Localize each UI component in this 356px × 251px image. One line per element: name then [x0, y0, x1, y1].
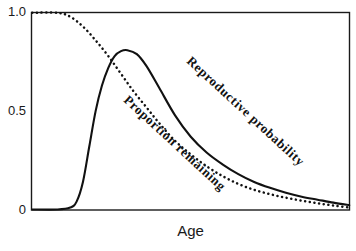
figure-container: Reproductive probability Proportion rema… [0, 0, 356, 251]
x-axis-title: Age [31, 222, 350, 239]
y-axis-tick-label-0: 0 [0, 203, 26, 216]
plot-frame [32, 13, 350, 211]
y-axis-tick-label-1: 1.0 [0, 5, 26, 18]
y-axis-tick-label-0_5: 0.5 [0, 104, 26, 117]
chart-plot-area: Reproductive probability Proportion rema… [0, 0, 356, 251]
